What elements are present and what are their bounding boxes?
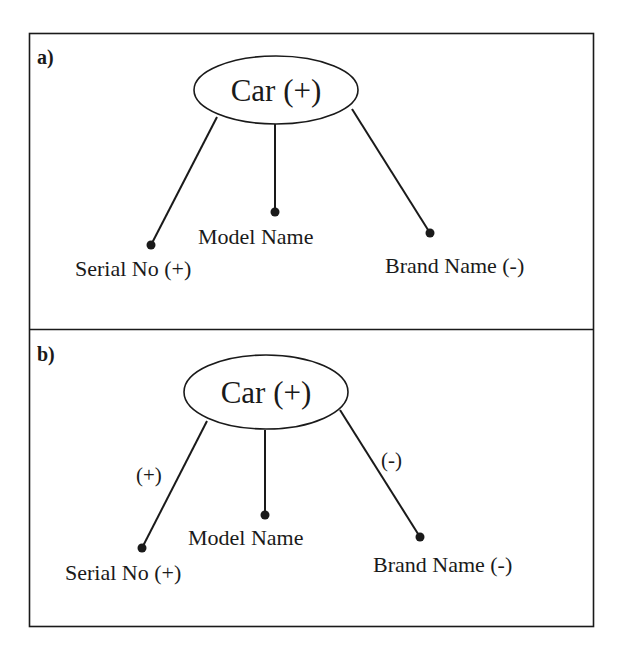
edge-car-brand xyxy=(340,410,420,537)
leaf-dot-model xyxy=(261,511,270,520)
diagram-canvas: a) Car (+) Serial No (+) Model Name Bran… xyxy=(0,0,623,658)
root-node-label: Car (+) xyxy=(221,375,312,410)
root-node-label: Car (+) xyxy=(231,73,322,108)
leaf-label-brand: Brand Name (-) xyxy=(385,253,524,278)
panel-label-a: a) xyxy=(37,46,54,69)
panel-b: b) (+) (-) Car (+) Serial No (+) Model N… xyxy=(37,343,512,585)
edge-car-brand xyxy=(352,109,430,233)
edge-label-serial: (+) xyxy=(136,463,162,487)
panel-label-b: b) xyxy=(37,343,55,366)
leaf-dot-serial xyxy=(138,544,147,553)
leaf-label-model: Model Name xyxy=(188,525,303,550)
leaf-dot-brand xyxy=(426,229,435,238)
leaf-label-model: Model Name xyxy=(198,224,313,249)
leaf-label-brand: Brand Name (-) xyxy=(373,552,512,577)
edge-label-brand: (-) xyxy=(381,448,402,472)
leaf-dot-serial xyxy=(147,241,156,250)
leaf-label-serial: Serial No (+) xyxy=(75,256,191,281)
leaf-dot-brand xyxy=(416,533,425,542)
leaf-label-serial: Serial No (+) xyxy=(65,560,181,585)
leaf-dot-model xyxy=(271,208,280,217)
panel-a: a) Car (+) Serial No (+) Model Name Bran… xyxy=(37,46,524,281)
